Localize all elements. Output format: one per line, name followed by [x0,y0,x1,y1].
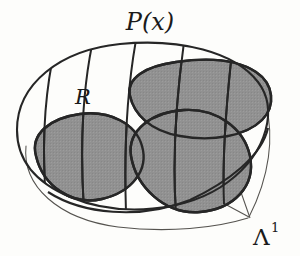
cell-label: R [74,85,91,109]
figure-root: P(x) R Λ 1 [0,0,300,256]
lambda-label: Λ [252,224,270,250]
set-partition-diagram: P(x) R Λ 1 [0,0,300,256]
partition-label: P(x) [125,8,174,36]
lambda-superscript: 1 [271,220,279,235]
